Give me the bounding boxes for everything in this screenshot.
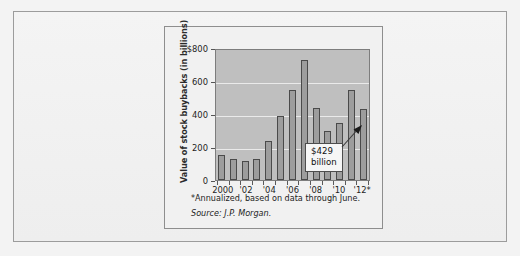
y-axis-title: Value of stock buybacks (in billions): [178, 33, 190, 183]
y-tick-mark: [211, 148, 215, 149]
y-tick-label: 200: [164, 143, 208, 153]
y-tick-label: 600: [164, 77, 208, 87]
y-tick-mark: [211, 115, 215, 116]
y-tick-label: $800: [164, 44, 208, 54]
y-tick-label: 0: [164, 176, 208, 186]
chart-source: Source: J.P. Morgan.: [191, 208, 271, 218]
bar: [242, 161, 249, 180]
y-tick-mark: [211, 49, 215, 50]
callout-line-1: $429: [311, 146, 337, 157]
callout-arrow-icon: [340, 123, 366, 149]
y-tick-mark: [211, 82, 215, 83]
bar: [289, 90, 296, 180]
outer-frame: Value of stock buybacks (in billions) $8…: [13, 11, 507, 242]
callout-429-billion: $429 billion: [305, 143, 343, 172]
bar-series: [216, 50, 369, 180]
y-tick-label: 400: [164, 110, 208, 120]
plot-area: [215, 49, 370, 181]
chart-panel: Value of stock buybacks (in billions) $8…: [164, 26, 383, 229]
bar: [230, 159, 237, 180]
bar: [253, 159, 260, 180]
bar: [277, 116, 284, 180]
bar: [218, 155, 225, 180]
bar: [265, 141, 272, 180]
callout-line-2: billion: [311, 157, 337, 168]
screenshot-root: Value of stock buybacks (in billions) $8…: [0, 0, 520, 256]
chart-footnote: *Annualized, based on data through June.: [191, 193, 360, 203]
